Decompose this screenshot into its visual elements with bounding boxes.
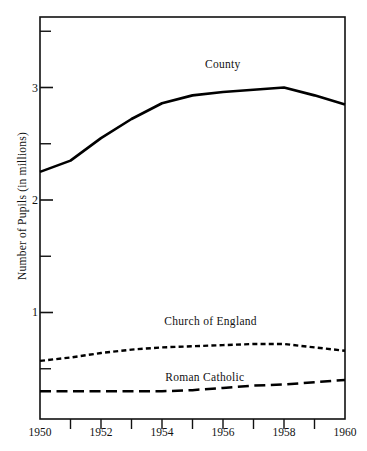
chart-figure: Number of Pupils (in millions) 3 2 1 195… [0, 0, 367, 451]
series-label-roman-catholic: Roman Catholic [165, 371, 244, 383]
y-tick-label-2: 2 [24, 193, 38, 208]
plot-frame [40, 17, 345, 419]
series-label-county: County [205, 58, 241, 70]
y-tick-label-1: 1 [24, 305, 38, 320]
x-tick-label-1956: 1956 [203, 426, 243, 438]
series-label-church-of-england: Church of England [164, 315, 257, 327]
x-tick-label-1960: 1960 [325, 426, 365, 438]
x-tick-label-1958: 1958 [264, 426, 304, 438]
x-tick-label-1952: 1952 [81, 426, 121, 438]
axis-ticks [40, 31, 315, 429]
series-line-church-of-england [40, 344, 345, 361]
x-tick-label-1950: 1950 [20, 426, 60, 438]
plot-area [0, 0, 367, 451]
data-series [40, 88, 345, 392]
y-tick-label-3: 3 [24, 81, 38, 96]
series-line-county [40, 88, 345, 172]
x-tick-label-1954: 1954 [142, 426, 182, 438]
